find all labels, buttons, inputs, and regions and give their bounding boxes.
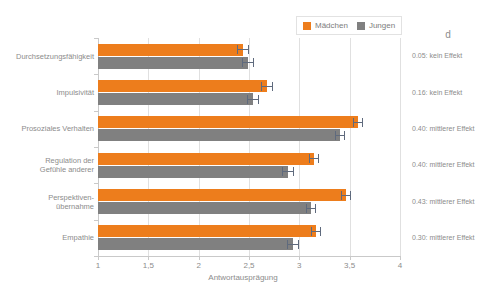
x-tick-mark [400,257,401,260]
error-bar [282,167,294,176]
gridline [400,38,401,256]
bar-chart: MädchenJungen d 0.05: kein Effekt0.16: k… [0,0,486,297]
gridline [199,38,200,256]
x-tick-label: 3 [284,261,314,271]
category-label-3: Prosoziales Verhalten [0,124,94,133]
x-tick-label: 1,5 [133,261,163,271]
y-tick-mark [94,183,98,184]
legend-entry-mädchen[interactable]: Mädchen [303,22,348,30]
y-tick-mark [94,220,98,221]
legend-entry-jungen[interactable]: Jungen [357,22,395,30]
x-tick-mark [148,257,149,260]
y-tick-mark [94,38,98,39]
y-tick-mark [94,111,98,112]
effect-size-value-3: 0.40: mittlerer Effekt [412,125,475,132]
category-label-1: Durchsetzungsfähigkeit [0,52,94,61]
x-tick-mark [98,257,99,260]
bar-jungen-1 [98,57,248,69]
gridline [299,38,300,256]
x-tick-mark [350,257,351,260]
y-tick-mark [94,74,98,75]
effect-size-column: d 0.05: kein Effekt0.16: kein Effekt0.40… [408,28,486,42]
legend-label: Mädchen [315,22,348,30]
error-bar [341,191,351,200]
error-bar [261,82,273,91]
error-bar [335,131,345,140]
error-bar [306,204,316,213]
bar-mädchen-2 [98,80,267,92]
effect-size-value-2: 0.16: kein Effekt [412,89,462,96]
gridline [249,38,250,256]
bar-mädchen-1 [98,44,243,56]
bar-jungen-3 [98,129,340,141]
legend-label: Jungen [369,22,395,30]
gridline [350,38,351,256]
error-bar [353,118,363,127]
bar-jungen-4 [98,166,288,178]
bar-mädchen-6 [98,225,316,237]
x-tick-mark [299,257,300,260]
x-tick-label: 4 [385,261,415,271]
error-bar [287,240,299,249]
bar-jungen-5 [98,202,311,214]
bar-jungen-2 [98,93,253,105]
category-label-5: Perspektiven- übernahme [0,193,94,211]
legend-swatch-icon [303,22,311,30]
bar-mädchen-4 [98,153,314,165]
y-tick-mark [94,147,98,148]
bar-mädchen-5 [98,189,346,201]
effect-size-value-1: 0.05: kein Effekt [412,52,462,59]
x-axis-title: Antwortausprägung [0,273,486,282]
category-label-6: Empathie [0,233,94,242]
effect-size-value-6: 0.30: mittlerer Effekt [412,234,475,241]
error-bar [242,58,254,67]
error-bar [237,45,249,54]
x-tick-label: 2 [184,261,214,271]
category-label-2: Impulsivität [0,88,94,97]
error-bar [311,227,321,236]
y-tick-mark [94,256,98,257]
bar-jungen-6 [98,238,293,250]
chart-legend: MädchenJungen [296,16,402,35]
error-bar [247,95,259,104]
x-tick-mark [249,257,250,260]
x-tick-label: 1 [83,261,113,271]
error-bar [309,154,319,163]
category-label-4: Regulation der Gefühle anderer [0,156,94,174]
x-tick-label: 2,5 [234,261,264,271]
x-tick-label: 3,5 [335,261,365,271]
plot-area [98,38,400,256]
bar-mädchen-3 [98,116,358,128]
gridline [148,38,149,256]
legend-swatch-icon [357,22,365,30]
effect-size-value-4: 0.40: mittlerer Effekt [412,161,475,168]
effect-size-value-5: 0.43: mittlerer Effekt [412,198,475,205]
x-tick-mark [199,257,200,260]
effect-size-header: d [416,28,480,42]
